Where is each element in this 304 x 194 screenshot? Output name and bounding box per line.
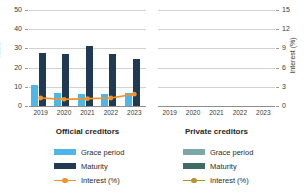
y-axis-left-tick-label: 50 <box>6 6 22 13</box>
interest-line-official <box>29 10 146 106</box>
interest-line-marker <box>132 92 137 97</box>
panel-caption-official: Official creditors <box>29 127 146 136</box>
legend-item-label: Interest (%) <box>81 176 120 185</box>
legend-item-label: Grace period <box>81 148 124 157</box>
interest-line-marker <box>109 96 114 101</box>
y-axis-left-tick-mark <box>25 106 28 107</box>
x-axis-tick-label: 2020 <box>52 109 75 116</box>
legend-color-swatch <box>54 163 76 169</box>
x-axis-tick-label: 2021 <box>76 109 99 116</box>
x-axis-tick-label: 2022 <box>99 109 122 116</box>
y-axis-right-tick-label: 3 <box>282 83 298 90</box>
y-axis-right-tick-label: 9 <box>282 44 298 51</box>
y-axis-left-tick-label: 20 <box>6 64 22 71</box>
x-axis-tick-label: 2021 <box>205 109 228 116</box>
y-axis-right-tick-mark <box>276 48 279 49</box>
y-axis-right-tick-mark <box>276 87 279 88</box>
y-axis-right-tick-mark <box>276 29 279 30</box>
y-axis-left-tick-label: 10 <box>6 83 22 90</box>
x-axis-tick-label: 2019 <box>29 109 52 116</box>
legend-item-label: Grace period <box>210 148 253 157</box>
chart-figure: Years 50403020100 Interest (%) 15129630 … <box>0 0 304 194</box>
interest-line-private <box>158 10 275 106</box>
interest-line-marker <box>85 96 90 101</box>
y-axis-right-tick-label: 6 <box>282 64 298 71</box>
x-axis-tick-label: 2023 <box>123 109 146 116</box>
legend-item[interactable]: Maturity <box>24 159 154 173</box>
y-axis-right-tick-mark <box>276 10 279 11</box>
interest-line-marker <box>38 96 43 101</box>
y-axis-right-tick-label: 15 <box>282 6 298 13</box>
legend-line-swatch <box>183 177 205 183</box>
legend-official: Grace periodMaturityInterest (%) <box>24 145 154 187</box>
y-axis-right-tick-label: 12 <box>282 25 298 32</box>
y-axis-left-tick-mark <box>25 87 28 88</box>
y-axis-left-tick-mark <box>25 10 28 11</box>
y-axis-left-tick-mark <box>25 48 28 49</box>
interest-line-marker <box>62 97 67 102</box>
y-axis-left-title: Years <box>0 42 1 60</box>
legend-item[interactable]: Grace period <box>153 145 283 159</box>
x-axis-tick-label: 2019 <box>158 109 181 116</box>
panel-caption-private: Private creditors <box>158 127 275 136</box>
legend-item-label: Interest (%) <box>210 176 249 185</box>
legend-color-swatch <box>54 149 76 155</box>
plot-panel-official: 20192020202120222023 <box>29 10 146 107</box>
x-axis-tick-label: 2020 <box>181 109 204 116</box>
legend-line-swatch <box>54 177 76 183</box>
legend-color-swatch <box>183 149 205 155</box>
interest-line-svg <box>29 10 146 106</box>
y-axis-left-tick-label: 30 <box>6 44 22 51</box>
axis-baseline-private <box>158 106 275 107</box>
y-axis-left-tick-mark <box>25 68 28 69</box>
x-axis-tick-label: 2023 <box>252 109 275 116</box>
y-axis-right-tick-label: 0 <box>282 102 298 109</box>
legend-item[interactable]: Interest (%) <box>24 173 154 187</box>
y-axis-left-tick-mark <box>25 29 28 30</box>
y-axis-right-tick-mark <box>276 106 279 107</box>
legend-color-swatch <box>183 163 205 169</box>
legend-item[interactable]: Interest (%) <box>153 173 283 187</box>
legend-private: Grace periodMaturityInterest (%) <box>153 145 283 187</box>
x-axis-tick-label: 2022 <box>228 109 251 116</box>
legend-item[interactable]: Maturity <box>153 159 283 173</box>
legend-item-label: Maturity <box>210 162 237 171</box>
axis-baseline-official <box>29 106 146 107</box>
y-axis-left-tick-label: 0 <box>6 102 22 109</box>
legend-item-label: Maturity <box>81 162 108 171</box>
y-axis-left-tick-label: 40 <box>6 25 22 32</box>
legend-item[interactable]: Grace period <box>24 145 154 159</box>
y-axis-right-tick-mark <box>276 68 279 69</box>
plot-panel-private: 20192020202120222023 <box>158 10 275 107</box>
